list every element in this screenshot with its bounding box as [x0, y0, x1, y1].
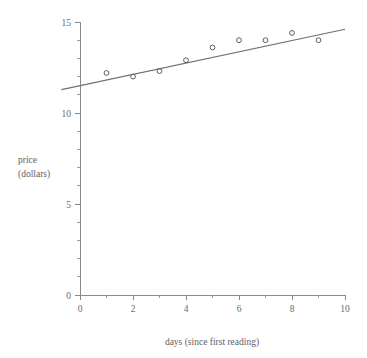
data-point	[263, 38, 268, 43]
x-axis-label: days (since first reading)	[165, 337, 259, 348]
x-tick-label: 2	[131, 304, 136, 314]
x-tick-label: 10	[340, 304, 350, 314]
y-axis-ticks	[75, 22, 80, 295]
x-axis-ticks	[80, 295, 345, 300]
y-axis-tick-labels: 051015	[62, 18, 72, 301]
scatter-plot: 051015 0246810 price (dollars) days (sin…	[0, 0, 367, 358]
y-tick-label: 15	[62, 18, 72, 28]
data-point	[316, 38, 321, 43]
data-point	[210, 45, 215, 50]
x-tick-label: 0	[78, 304, 83, 314]
data-point	[157, 69, 162, 74]
data-point	[290, 31, 295, 36]
data-point	[104, 71, 109, 76]
regression-line	[61, 29, 345, 89]
x-tick-label: 8	[290, 304, 295, 314]
data-points-group	[104, 31, 321, 79]
data-point	[237, 38, 242, 43]
x-tick-label: 6	[237, 304, 242, 314]
data-point	[184, 58, 189, 63]
y-tick-label: 5	[66, 200, 71, 210]
chart-page: 051015 0246810 price (dollars) days (sin…	[0, 0, 367, 358]
y-axis-label-line2: (dollars)	[18, 169, 50, 180]
y-axis-label-line1: price	[18, 155, 37, 165]
x-axis-tick-labels: 0246810	[78, 304, 350, 314]
y-tick-label: 0	[66, 291, 71, 301]
axes-group	[80, 22, 345, 295]
y-tick-label: 10	[62, 109, 72, 119]
x-tick-label: 4	[184, 304, 189, 314]
